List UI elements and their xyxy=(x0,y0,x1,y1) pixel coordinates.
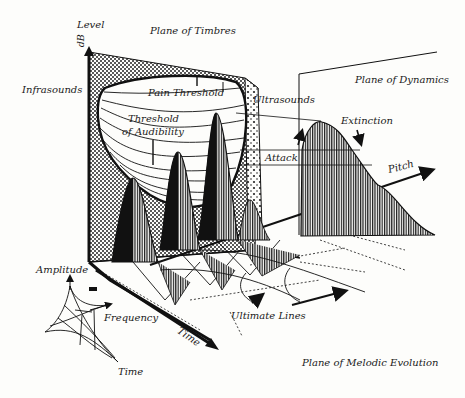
extinction-label: Extinction xyxy=(341,116,393,126)
level-unit-label: dB xyxy=(76,34,86,47)
plane-of-melodic-evolution-label: Plane of Melodic Evolution xyxy=(302,358,438,368)
plane-of-dynamics-label: Plane of Dynamics xyxy=(355,75,449,85)
inset-amplitude-label: Amplitude xyxy=(36,265,88,275)
attack-label: Attack xyxy=(265,153,298,163)
threshold-audibility-label-1: Threshold xyxy=(128,114,179,124)
level-axis-label: Level xyxy=(77,20,104,30)
threshold-audibility-label-2: of Audibility xyxy=(122,127,184,137)
inset-frequency-label: Frequency xyxy=(104,313,158,323)
sound-space-diagram: Level dB Plane of Timbres Infrasounds Pa… xyxy=(0,0,465,398)
ultrasounds-label: Ultrasounds xyxy=(253,95,315,105)
pain-threshold-label: Pain Threshold xyxy=(148,88,224,98)
plane-of-timbres-label: Plane of Timbres xyxy=(150,26,236,36)
inset-time-label: Time xyxy=(118,367,143,377)
infrasounds-label: Infrasounds xyxy=(22,85,82,95)
ultimate-lines-label: Ultimate Lines xyxy=(231,311,306,321)
diagram-graphic xyxy=(0,0,465,398)
